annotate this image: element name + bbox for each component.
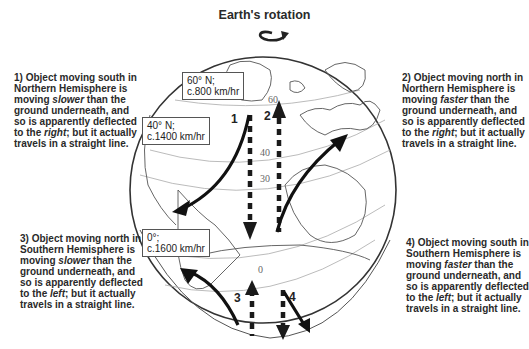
lat-60-label: 60 xyxy=(268,94,278,105)
caption-1: 1) Object moving south in Northern Hemis… xyxy=(14,72,139,149)
lat-box-0-speed: c.1600 km/hr xyxy=(147,243,205,254)
arrow-label-1: 1 xyxy=(231,112,238,126)
lat-box-60: 60° N; c.800 km/hr xyxy=(182,72,244,100)
lat-30-label: 30 xyxy=(260,173,270,184)
rotation-arrow-icon xyxy=(260,31,289,40)
lat-box-0-lat: 0°; xyxy=(147,232,205,243)
lat-box-40: 40° N; c.1400 km/hr xyxy=(142,117,210,145)
lat-box-40-speed: c.1400 km/hr xyxy=(147,131,205,142)
lat-box-0: 0°; c.1600 km/hr xyxy=(142,229,210,257)
globe-outline xyxy=(130,57,396,323)
arrow-label-3: 3 xyxy=(234,291,241,305)
arrow-label-4: 4 xyxy=(289,290,296,304)
lat-40-label: 40 xyxy=(260,147,270,158)
lat-box-60-speed: c.800 km/hr xyxy=(187,86,239,97)
caption-2: 2) Object moving north in Northern Hemis… xyxy=(402,72,527,149)
caption-3: 3) Object moving north in Southern Hemis… xyxy=(20,233,145,310)
caption-4: 4) Object moving south in Southern Hemis… xyxy=(406,237,529,314)
arrow-label-2: 2 xyxy=(264,109,271,123)
lat-box-60-lat: 60° N; xyxy=(187,75,239,86)
lat-0-label: 0 xyxy=(258,264,263,275)
lat-box-40-lat: 40° N; xyxy=(147,120,205,131)
